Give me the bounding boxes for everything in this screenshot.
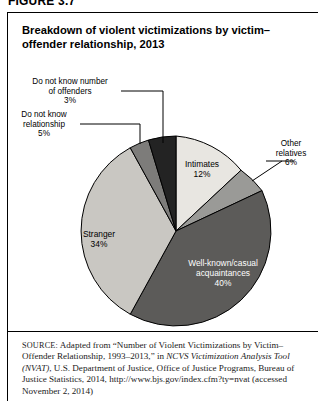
callout-label-dont-know-offenders: Do not know number of offenders 3% <box>18 77 122 106</box>
slice-label-acquaintances: Well-known/casual acquaintances 40% <box>169 258 277 288</box>
source-text-2: , U.S. Department of Justice, Office of … <box>22 363 294 396</box>
pie-chart: Do not know number of offenders 3% Do no… <box>8 57 318 327</box>
callout-label-other-relatives: Other relatives 6% <box>266 139 316 168</box>
slice-label-stranger: Stranger 34% <box>66 229 132 249</box>
leader-line-dont-know-offenders <box>121 91 163 143</box>
leader-line-dont-know-relationship <box>80 124 140 144</box>
source-divider <box>8 331 318 332</box>
figure-container: Breakdown of violent victimizations by v… <box>7 12 318 401</box>
source-note: SOURCE: Adapted from “Number of Violent … <box>22 340 308 397</box>
figure-title: Breakdown of violent victimizations by v… <box>22 23 302 51</box>
source-prefix: SOURCE: <box>22 341 58 350</box>
slice-label-intimates: Intimates 12% <box>166 159 238 179</box>
callout-label-dont-know-relationship: Do not know relationship 5% <box>10 110 78 139</box>
figure-number-label: FIGURE 3.7 <box>8 0 75 7</box>
